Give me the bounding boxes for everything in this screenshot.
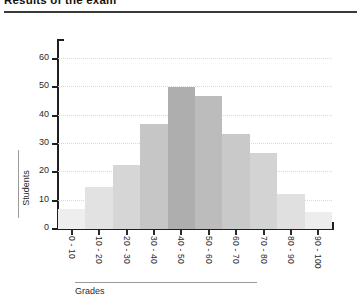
y-tick: 50 bbox=[0, 87, 58, 88]
y-tick: 60 bbox=[0, 59, 58, 60]
x-axis-title-rule bbox=[75, 282, 257, 283]
x-axis-title: Grades bbox=[75, 286, 105, 296]
bar[interactable] bbox=[85, 187, 112, 229]
y-axis-title-rule bbox=[18, 150, 19, 218]
x-axis-tick-labels: 0 - 1010 - 2020 - 3030 - 4040 - 5050 - 6… bbox=[58, 236, 332, 278]
bar[interactable] bbox=[140, 124, 167, 229]
bar[interactable] bbox=[58, 209, 85, 229]
x-tick-label-slot: 20 - 30 bbox=[113, 236, 140, 278]
y-axis-title: Students bbox=[21, 170, 31, 206]
bar[interactable] bbox=[113, 165, 140, 229]
x-tick-mark bbox=[208, 230, 210, 235]
title-divider bbox=[4, 11, 357, 13]
x-tick-label-slot: 90 - 100 bbox=[305, 236, 332, 278]
y-tick-mark bbox=[52, 143, 58, 145]
y-tick-mark bbox=[52, 86, 58, 88]
plot-area bbox=[58, 45, 332, 229]
y-tick-mark bbox=[52, 58, 58, 60]
y-tick: 0 bbox=[0, 229, 58, 230]
x-tick-label-slot: 10 - 20 bbox=[85, 236, 112, 278]
bar[interactable] bbox=[277, 194, 304, 229]
y-tick: 40 bbox=[0, 116, 58, 117]
x-tick-label: 90 - 100 bbox=[313, 236, 323, 269]
x-axis-cap bbox=[332, 222, 334, 230]
y-tick-label: 40 bbox=[39, 109, 49, 119]
x-tick-label-slot: 30 - 40 bbox=[140, 236, 167, 278]
x-tick-label-slot: 80 - 90 bbox=[277, 236, 304, 278]
x-tick-mark bbox=[180, 230, 182, 235]
y-tick-label: 10 bbox=[39, 194, 49, 204]
y-tick-label: 0 bbox=[44, 222, 49, 232]
x-tick-mark bbox=[126, 230, 128, 235]
y-tick-mark bbox=[52, 115, 58, 117]
bar[interactable] bbox=[250, 153, 277, 229]
y-tick: 30 bbox=[0, 144, 58, 145]
x-tick-label: 20 - 30 bbox=[122, 236, 132, 264]
x-tick-mark bbox=[290, 230, 292, 235]
x-tick-label: 0 - 10 bbox=[67, 236, 77, 259]
page-title: Results of the exam bbox=[4, 0, 116, 6]
y-tick-mark bbox=[52, 171, 58, 173]
bar[interactable] bbox=[168, 87, 195, 229]
x-tick-label-slot: 40 - 50 bbox=[168, 236, 195, 278]
x-tick-label: 40 - 50 bbox=[176, 236, 186, 264]
x-tick-label: 30 - 40 bbox=[149, 236, 159, 264]
x-tick-mark bbox=[317, 230, 319, 235]
x-tick-mark bbox=[263, 230, 265, 235]
y-axis-cap bbox=[57, 39, 64, 41]
y-tick-label: 20 bbox=[39, 165, 49, 175]
x-tick-label-slot: 0 - 10 bbox=[58, 236, 85, 278]
bar[interactable] bbox=[195, 96, 222, 229]
x-tick-mark bbox=[153, 230, 155, 235]
x-tick-mark bbox=[98, 230, 100, 235]
bar-series bbox=[58, 45, 332, 229]
x-tick-label-slot: 50 - 60 bbox=[195, 236, 222, 278]
bar[interactable] bbox=[222, 134, 249, 229]
x-tick-label: 80 - 90 bbox=[286, 236, 296, 264]
x-tick-label-slot: 70 - 80 bbox=[250, 236, 277, 278]
y-tick-label: 60 bbox=[39, 52, 49, 62]
x-tick-mark bbox=[235, 230, 237, 235]
x-tick-mark bbox=[71, 230, 73, 235]
x-tick-label: 10 - 20 bbox=[94, 236, 104, 264]
y-tick-label: 50 bbox=[39, 80, 49, 90]
x-tick-label: 70 - 80 bbox=[259, 236, 269, 264]
y-tick-label: 30 bbox=[39, 137, 49, 147]
bar[interactable] bbox=[305, 212, 332, 229]
x-tick-label-slot: 60 - 70 bbox=[222, 236, 249, 278]
x-tick-label: 60 - 70 bbox=[231, 236, 241, 264]
y-tick-mark bbox=[52, 200, 58, 202]
x-tick-label: 50 - 60 bbox=[204, 236, 214, 264]
